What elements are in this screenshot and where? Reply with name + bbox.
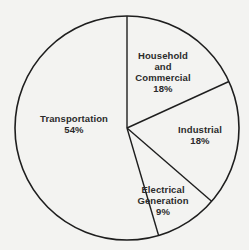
label-industrial-line1: Industrial [178, 124, 222, 135]
label-transportation-pct: 54% [40, 124, 108, 135]
label-household-line2: and [135, 61, 190, 72]
label-electrical-line2: Generation [137, 195, 188, 206]
label-electrical-line1: Electrical [137, 184, 188, 195]
label-industrial-pct: 18% [178, 135, 222, 146]
label-electrical-generation: Electrical Generation 9% [137, 184, 188, 217]
label-household-line1: Household [135, 50, 190, 61]
label-industrial: Industrial 18% [178, 124, 222, 146]
label-transportation-line1: Transportation [40, 113, 108, 124]
label-transportation: Transportation 54% [40, 113, 108, 135]
label-household-line3: Commercial [135, 72, 190, 83]
label-electrical-pct: 9% [137, 206, 188, 217]
label-household-pct: 18% [135, 83, 190, 94]
slice-divider-3 [127, 128, 159, 236]
label-household-commercial: Household and Commercial 18% [135, 50, 190, 94]
